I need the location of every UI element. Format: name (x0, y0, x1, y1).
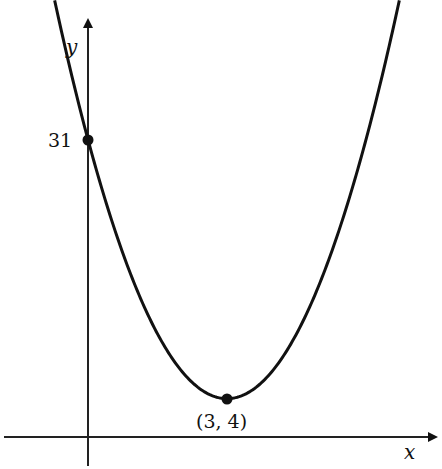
parabola-curve (55, 0, 400, 398)
vertex-point (222, 394, 233, 405)
y-intercept-point (83, 135, 94, 146)
y-intercept-label: 31 (48, 129, 72, 151)
parabola-graph: y x 31 (3, 4) (0, 0, 442, 469)
vertex-label: (3, 4) (196, 410, 247, 432)
y-axis-label: y (65, 35, 78, 59)
x-axis-label: x (404, 440, 415, 464)
